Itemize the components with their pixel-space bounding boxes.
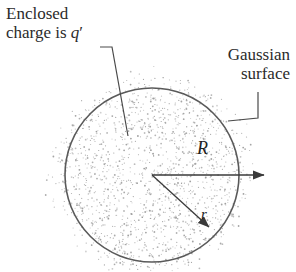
enclosed-charge-prime: ′ (79, 23, 83, 42)
enclosed-charge-leader-line (100, 47, 128, 136)
radius-R-label: R (197, 138, 208, 159)
gauss-law-sphere-figure: Enclosedcharge is q′ Gaussiansurface R r (0, 0, 296, 272)
gaussian-surface-label: Gaussiansurface (186, 45, 290, 83)
enclosed-charge-line1: Enclosed (6, 4, 68, 23)
gaussian-surface-leader-line (228, 92, 258, 121)
enclosed-charge-line2-prefix: charge is (6, 23, 71, 42)
gaussian-surface-line2: surface (241, 64, 290, 83)
radius-r-label: r (201, 206, 207, 223)
gaussian-surface-line1: Gaussian (228, 45, 290, 64)
enclosed-charge-label: Enclosedcharge is q′ (6, 4, 83, 42)
